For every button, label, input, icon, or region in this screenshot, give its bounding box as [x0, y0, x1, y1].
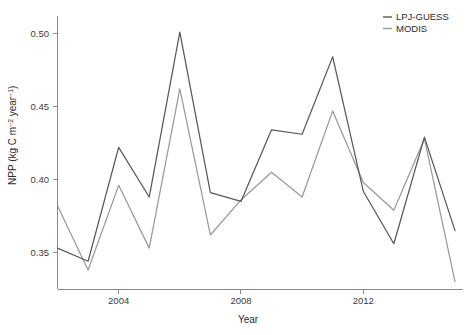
y-axis-ticks: 0.350.400.450.50: [31, 28, 58, 258]
x-axis-title: Year: [238, 314, 259, 325]
series-line-modis: [58, 89, 456, 282]
x-axis-ticks: 200420082012: [108, 290, 374, 307]
y-tick-label: 0.50: [31, 28, 50, 39]
legend-label-lpj-guess: LPJ-GUESS: [396, 11, 449, 22]
y-tick-label: 0.45: [31, 101, 50, 112]
y-axis-title: NPP (kg C m−2 year−1): [7, 86, 18, 185]
chart-legend: LPJ-GUESSMODIS: [383, 11, 449, 34]
x-tick-label: 2012: [353, 295, 374, 306]
series-lines: [58, 32, 456, 282]
chart-canvas: 0.350.400.450.50 200420082012 NPP (kg C …: [0, 0, 465, 335]
x-tick-label: 2008: [230, 295, 251, 306]
legend-label-modis: MODIS: [396, 23, 427, 34]
y-tick-label: 0.35: [31, 247, 50, 258]
series-line-lpj-guess: [58, 32, 456, 261]
x-tick-label: 2004: [108, 295, 129, 306]
npp-line-chart: 0.350.400.450.50 200420082012 NPP (kg C …: [0, 0, 465, 335]
y-tick-label: 0.40: [31, 174, 50, 185]
